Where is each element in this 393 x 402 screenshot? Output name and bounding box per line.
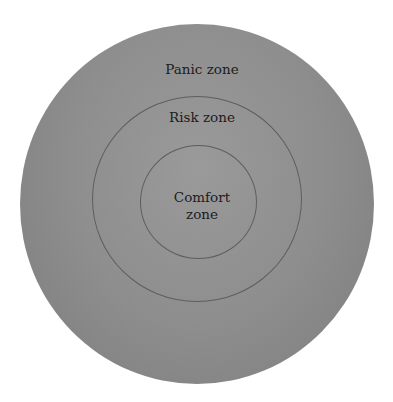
- comfort-zone-label: Comfort zone: [147, 189, 257, 223]
- comfort-zone-label-line2: zone: [147, 206, 257, 223]
- panic-zone-label: Panic zone: [147, 61, 257, 78]
- comfort-zone-label-line1: Comfort: [147, 189, 257, 206]
- risk-zone-label: Risk zone: [147, 109, 257, 126]
